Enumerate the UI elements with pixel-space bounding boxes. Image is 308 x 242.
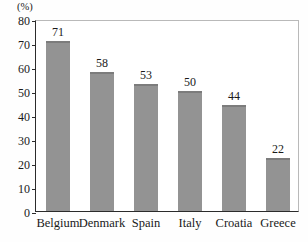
bar-group: 71Belgium <box>36 21 80 211</box>
x-axis-category-label: Spain <box>132 216 160 231</box>
bar <box>46 41 70 211</box>
y-axis-tick-label: 80 <box>18 15 30 27</box>
bar-chart: (%) 80706050403020100 71Belgium58Denmark… <box>0 0 308 242</box>
y-axis-tick-label: 60 <box>18 63 30 75</box>
bar-value-label: 53 <box>140 69 152 81</box>
bar-value-label: 58 <box>96 57 108 69</box>
y-axis-unit-label: (%) <box>17 0 33 13</box>
y-axis-tick-label: 20 <box>18 159 30 171</box>
x-axis-category-label: Greece <box>260 216 295 231</box>
bar-group: 44Croatia <box>212 21 256 211</box>
x-axis-category-label: Belgium <box>36 216 79 231</box>
bar-group: 58Denmark <box>80 21 124 211</box>
bar <box>134 84 158 211</box>
x-axis-category-label: Croatia <box>216 216 253 231</box>
y-axis-tick-mark <box>32 213 36 214</box>
bar-group: 22Greece <box>256 21 300 211</box>
bar-value-label: 71 <box>52 26 64 38</box>
bar-value-label: 44 <box>228 90 240 102</box>
plot-area: 80706050403020100 71Belgium58Denmark53Sp… <box>35 20 299 212</box>
bar-value-label: 50 <box>184 76 196 88</box>
y-axis-tick-label: 0 <box>24 207 30 219</box>
bar <box>266 158 290 211</box>
bar-group: 50Italy <box>168 21 212 211</box>
bar <box>90 72 114 211</box>
y-axis-tick-label: 40 <box>18 111 30 123</box>
y-axis-tick-label: 10 <box>18 183 30 195</box>
bar-group: 53Spain <box>124 21 168 211</box>
y-axis-tick-label: 70 <box>18 39 30 51</box>
bar-value-label: 22 <box>272 143 284 155</box>
y-axis-tick-label: 30 <box>18 135 30 147</box>
x-axis-category-label: Italy <box>179 216 202 231</box>
x-axis-category-label: Denmark <box>79 216 126 231</box>
bar <box>222 105 246 211</box>
y-axis-tick-label: 50 <box>18 87 30 99</box>
bar <box>178 91 202 211</box>
